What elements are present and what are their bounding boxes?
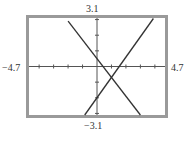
decreasing-line	[68, 21, 140, 115]
axes	[29, 18, 165, 115]
graph-window	[0, 0, 190, 144]
